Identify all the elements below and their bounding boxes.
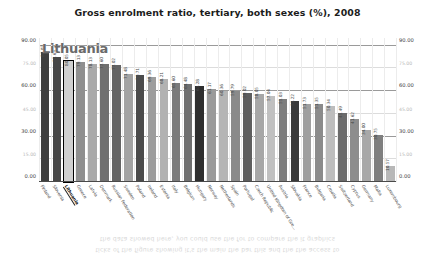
bar-slot[interactable]: 80.05 <box>63 38 75 182</box>
x-label-slot: Netherlands <box>218 183 230 231</box>
bar-value-label: 79.13 <box>76 55 81 67</box>
bar-slot[interactable]: 51.35 <box>313 38 325 182</box>
bar[interactable]: 45.49 <box>338 113 347 182</box>
bar-slot[interactable]: 71.48 <box>122 38 134 182</box>
bar-slot[interactable]: 58.05 <box>253 38 265 182</box>
x-label-slot: Finland <box>39 183 51 231</box>
bar-slot[interactable]: 82.63 <box>51 38 63 182</box>
bar-slot[interactable]: 30.75 <box>372 38 384 182</box>
x-label-slot: Slovakia <box>289 183 301 231</box>
bar[interactable]: 58.05 <box>255 94 264 182</box>
bar[interactable]: 51.73 <box>303 104 312 182</box>
x-label-slot: Norway <box>206 183 218 231</box>
bar-value-label: 10.57 <box>385 159 390 171</box>
x-axis-label[interactable]: Italy <box>171 184 180 194</box>
bar[interactable]: 77.02 <box>112 65 121 182</box>
bar-slot[interactable]: 77.60 <box>99 38 111 182</box>
x-label-slot: Belgium <box>182 183 194 231</box>
bar-value-label: 63.28 <box>195 79 200 91</box>
x-label-slot: Malta <box>372 183 384 231</box>
x-label-slot: Luxembourg <box>384 183 396 231</box>
x-label-slot: Denmark <box>99 183 111 231</box>
bar-slot[interactable]: 63.28 <box>194 38 206 182</box>
bar[interactable]: 10.57 <box>386 166 395 182</box>
bar-slot[interactable]: 64.48 <box>182 38 194 182</box>
x-label-slot: Switzerland <box>337 183 349 231</box>
x-label-slot: Bulgaria <box>313 183 325 231</box>
bar[interactable]: 63.28 <box>195 86 204 182</box>
bar-slot[interactable]: 59.79 <box>230 38 242 182</box>
bar-slot[interactable]: 53.22 <box>289 38 301 182</box>
bar[interactable]: 51.35 <box>315 104 324 182</box>
bar[interactable]: 57.04 <box>267 96 276 182</box>
y-tick-label: 0.00 <box>24 173 36 179</box>
bar-value-label: 34.00 <box>361 124 366 136</box>
bar[interactable]: 59.02 <box>243 93 252 182</box>
bar-slot[interactable]: 78.13 <box>87 38 99 182</box>
bar[interactable]: 59.79 <box>231 91 240 182</box>
x-axis-label[interactable]: France <box>302 184 314 199</box>
bar[interactable]: 61.17 <box>207 89 216 182</box>
bar-slot[interactable]: 69.36 <box>146 38 158 182</box>
bar[interactable]: 50.34 <box>326 106 335 182</box>
bar[interactable]: 82.63 <box>53 57 62 182</box>
bar[interactable]: 41.62 <box>350 119 359 182</box>
bar-slot[interactable]: 79.13 <box>75 38 87 182</box>
x-axis-label[interactable]: Ireland <box>147 184 159 199</box>
x-label-slot: Greece <box>75 183 87 231</box>
bar-value-label: 50.34 <box>326 99 331 111</box>
x-axis-label[interactable]: Luxembourg <box>385 184 403 209</box>
y-tick-label-minor: 45.00 <box>23 106 36 111</box>
bar-slot[interactable]: 59.02 <box>241 38 253 182</box>
bar-slot[interactable]: 65.60 <box>170 38 182 182</box>
x-label-slot: Hungary <box>194 183 206 231</box>
bar-slot[interactable]: 68.21 <box>158 38 170 182</box>
x-label-slot: Poland <box>134 183 146 231</box>
bar-slot[interactable]: 57.04 <box>265 38 277 182</box>
x-axis-label[interactable]: Spain <box>230 184 240 197</box>
bar[interactable]: 70.71 <box>136 75 145 182</box>
bar-slot[interactable]: 45.49 <box>337 38 349 182</box>
y-tick-label: 30.00 <box>399 128 414 134</box>
x-axis-label[interactable]: Latvia <box>87 184 98 197</box>
bar-value-label: 58.05 <box>254 87 259 99</box>
bar[interactable]: 64.48 <box>184 84 193 182</box>
bar[interactable]: 77.60 <box>100 64 109 182</box>
y-tick-label: 90.00 <box>399 37 414 43</box>
x-label-slot: Estonia <box>158 183 170 231</box>
bar-slot[interactable]: 10.57 <box>384 38 396 182</box>
bar[interactable]: 60.36 <box>219 91 228 182</box>
bar[interactable]: 30.75 <box>374 135 383 182</box>
bar-value-label: 53.22 <box>290 94 295 106</box>
bar[interactable]: 80.05 <box>64 61 73 182</box>
bar-slot[interactable]: 50.34 <box>325 38 337 182</box>
bar[interactable]: 78.13 <box>88 64 97 182</box>
bar-slot[interactable]: 86.02 <box>39 38 51 182</box>
bar-slot[interactable]: 70.71 <box>134 38 146 182</box>
bar-slot[interactable]: 41.62 <box>349 38 361 182</box>
bar[interactable]: 34.00 <box>362 130 371 182</box>
bar-value-label: 64.48 <box>183 77 188 89</box>
bar[interactable]: 79.13 <box>76 62 85 182</box>
bar[interactable]: 71.48 <box>124 74 133 182</box>
bar[interactable]: 68.21 <box>160 79 169 182</box>
bar[interactable]: 53.22 <box>291 101 300 182</box>
y-tick-label: 60.00 <box>21 82 36 88</box>
x-axis-labels: FinlandSloveniaLithuaniaGreeceLatviaDenm… <box>39 183 396 231</box>
y-tick-label: 90.00 <box>21 37 36 43</box>
x-axis-label[interactable]: Poland <box>135 184 147 199</box>
bar-value-label: 59.02 <box>242 86 247 98</box>
x-axis-label[interactable]: Malta <box>373 184 383 197</box>
bar-slot[interactable]: 55.03 <box>277 38 289 182</box>
bar-slot[interactable]: 60.36 <box>218 38 230 182</box>
bar[interactable]: 65.60 <box>172 83 181 182</box>
bar-value-label: 71.48 <box>123 67 128 79</box>
bar-slot[interactable]: 61.17 <box>206 38 218 182</box>
bar[interactable]: 69.36 <box>148 77 157 182</box>
bar-value-label: 82.63 <box>52 50 57 62</box>
bar-slot[interactable]: 51.73 <box>301 38 313 182</box>
bar[interactable]: 55.03 <box>279 99 288 182</box>
bar-slot[interactable]: 77.02 <box>110 38 122 182</box>
bar[interactable]: 86.02 <box>41 52 50 182</box>
bar-slot[interactable]: 34.00 <box>360 38 372 182</box>
